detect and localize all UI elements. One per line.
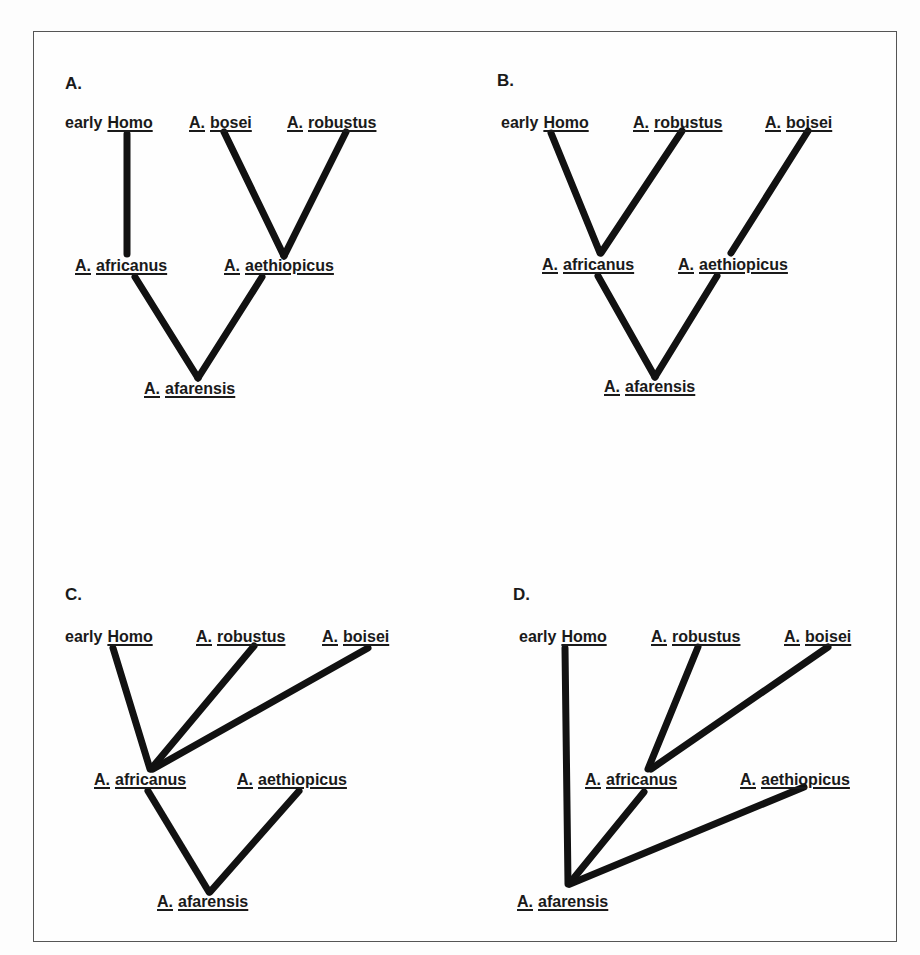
panel-d-label-afarensis: A.afarensis [517, 893, 608, 911]
panel-a-label-afarensis: A.afarensis [144, 380, 235, 398]
genus: A. [784, 628, 800, 645]
panel-c-label-early-homo: earlyHomo [65, 628, 153, 646]
genus: A. [651, 628, 667, 645]
panel-b-label-boisei: A.boisei [765, 114, 832, 132]
genus: A. [287, 114, 303, 131]
panel-a-label-robustus: A.robustus [287, 114, 376, 132]
species: aethiopicus [699, 256, 788, 273]
genus: A. [740, 771, 756, 788]
early-prefix: early [65, 114, 102, 131]
species: aethiopicus [761, 771, 850, 788]
genus: A. [542, 256, 558, 273]
panel-d-letter: D. [513, 585, 530, 605]
genus: A. [517, 893, 533, 910]
species: boisei [805, 628, 851, 645]
genus: A. [224, 257, 240, 274]
species: aethiopicus [245, 257, 334, 274]
panel-d-label-early-homo: earlyHomo [519, 628, 607, 646]
panel-b-letter: B. [497, 71, 514, 91]
phylogeny-diagram [0, 0, 920, 955]
genus: A. [75, 257, 91, 274]
genus: A. [144, 380, 160, 397]
panel-b-branches [551, 131, 808, 377]
panel-d-label-robustus: A.robustus [651, 628, 740, 646]
branch-a-bosei-aethiopicus [224, 132, 284, 256]
early-prefix: early [65, 628, 102, 645]
panel-c-branches [113, 646, 368, 892]
panel-b-label-robustus: A.robustus [633, 114, 722, 132]
species: africanus [606, 771, 677, 788]
panel-d-label-boisei: A.boisei [784, 628, 851, 646]
panel-a-letter: A. [65, 74, 82, 94]
branch-b-homo-africanus [551, 133, 600, 253]
genus: A. [633, 114, 649, 131]
species: africanus [96, 257, 167, 274]
species: afarensis [165, 380, 235, 397]
species: boisei [343, 628, 389, 645]
genus: A. [765, 114, 781, 131]
panel-a-label-aethiopicus: A.aethiopicus [224, 257, 334, 275]
species: africanus [115, 771, 186, 788]
panel-b-label-afarensis: A.afarensis [604, 378, 695, 396]
early-prefix: early [519, 628, 556, 645]
species: africanus [563, 256, 634, 273]
branch-c-robustus-africanus [151, 646, 254, 769]
panel-c-letter: C. [65, 585, 82, 605]
genus: A. [678, 256, 694, 273]
genus: A. [322, 628, 338, 645]
branch-b-africanus-afarensis [598, 276, 655, 377]
genus: A. [237, 771, 253, 788]
branch-c-africanus-afarensis [148, 791, 209, 892]
panel-c-label-africanus: A.africanus [94, 771, 186, 789]
genus: A. [196, 628, 212, 645]
genus: A. [604, 378, 620, 395]
panel-c-label-aethiopicus: A.aethiopicus [237, 771, 347, 789]
panel-a-label-bosei: A.bosei [189, 114, 252, 132]
panel-a-label-africanus: A.africanus [75, 257, 167, 275]
genus: A. [189, 114, 205, 131]
species: robustus [308, 114, 376, 131]
panel-c-label-robustus: A.robustus [196, 628, 285, 646]
panel-b-label-early-homo: earlyHomo [501, 114, 589, 132]
species: boisei [786, 114, 832, 131]
branch-d-homo-afarensis [565, 648, 568, 884]
panel-d-label-aethiopicus: A.aethiopicus [740, 771, 850, 789]
species: afarensis [625, 378, 695, 395]
panel-c-label-afarensis: A.afarensis [157, 893, 248, 911]
species: robustus [672, 628, 740, 645]
genus: A. [585, 771, 601, 788]
panel-a-branches [127, 132, 346, 378]
panel-b-label-aethiopicus: A.aethiopicus [678, 256, 788, 274]
panel-b-label-africanus: A.africanus [542, 256, 634, 274]
species: aethiopicus [258, 771, 347, 788]
panel-d-branches [565, 647, 828, 884]
branch-a-aethiopicus-afarensis [198, 277, 262, 378]
branch-a-africanus-afarensis [135, 277, 198, 378]
branch-b-aethiopicus-afarensis [655, 276, 717, 377]
panel-a-label-early-homo: earlyHomo [65, 114, 153, 132]
species: afarensis [178, 893, 248, 910]
genus: A. [157, 893, 173, 910]
genus-homo: Homo [107, 628, 152, 645]
panel-d-label-africanus: A.africanus [585, 771, 677, 789]
species: bosei [210, 114, 252, 131]
species: robustus [654, 114, 722, 131]
species: afarensis [538, 893, 608, 910]
branch-c-homo-africanus [113, 648, 150, 769]
branch-a-robustus-aethiopicus [284, 132, 346, 256]
branch-c-boisei-africanus [153, 648, 368, 769]
genus-homo: Homo [561, 628, 606, 645]
early-prefix: early [501, 114, 538, 131]
genus: A. [94, 771, 110, 788]
genus-homo: Homo [543, 114, 588, 131]
branch-b-robustus-africanus [601, 131, 682, 253]
branch-b-boisei-aethiopicus [731, 131, 808, 253]
branch-d-boisei-africanus [651, 647, 828, 769]
panel-c-label-boisei: A.boisei [322, 628, 389, 646]
species: robustus [217, 628, 285, 645]
branch-c-aethiopicus-afarensis [210, 791, 299, 892]
genus-homo: Homo [107, 114, 152, 131]
